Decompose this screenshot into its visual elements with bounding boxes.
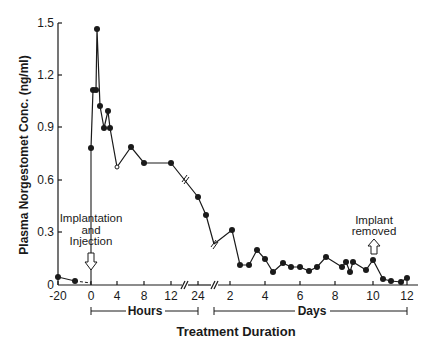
y-axis-label: Plasma Norgestomet Conc. (ng/ml)	[17, 55, 31, 254]
up-arrow-icon	[368, 239, 380, 254]
x-tick-hours-0: 0	[88, 289, 95, 303]
days-label: Days	[298, 304, 327, 318]
y-tick-0.3: 0.3	[37, 225, 54, 239]
x-tick-days-12: 12	[400, 289, 414, 303]
x-tick-hours-12: 12	[164, 289, 178, 303]
y-tick-labels: 1.5 1.2 0.9 0.6 0.3 0	[37, 16, 54, 292]
svg-text:removed: removed	[352, 225, 397, 237]
y-tick-1.5: 1.5	[37, 16, 54, 30]
x-tick-hours-8: 8	[141, 289, 148, 303]
down-arrow-icon	[85, 253, 97, 270]
x-tick-days-4: 4	[262, 289, 269, 303]
x-tick-labels: -20 0 4 8 12 24 2 4 6 8 10 12	[49, 289, 414, 303]
implant-removed-annotation: Implant removed	[352, 214, 397, 254]
x-tick-hours-4: 4	[114, 289, 121, 303]
series-pretreatment	[55, 274, 91, 284]
x-axis	[58, 281, 418, 289]
x-axis-label: Treatment Duration	[176, 324, 295, 339]
x-tick-hours-24: 24	[191, 289, 205, 303]
x-tick-days-8: 8	[332, 289, 339, 303]
y-axis	[58, 23, 62, 285]
x-tick-days-2: 2	[227, 289, 234, 303]
y-tick-0.6: 0.6	[37, 173, 54, 187]
y-tick-1.2: 1.2	[37, 68, 54, 82]
x-tick-hours-neg20: -20	[49, 289, 67, 303]
implantation-annotation: Implantation and Injection	[60, 212, 123, 270]
hours-label: Hours	[128, 304, 163, 318]
pk-line-chart: 1.5 1.2 0.9 0.6 0.3 0 Plasma Norgestomet…	[0, 0, 434, 350]
x-tick-days-10: 10	[366, 289, 380, 303]
svg-text:Implantation: Implantation	[60, 212, 123, 224]
y-tick-0.9: 0.9	[37, 120, 54, 134]
svg-text:Injection: Injection	[70, 235, 113, 247]
x-tick-days-6: 6	[297, 289, 304, 303]
